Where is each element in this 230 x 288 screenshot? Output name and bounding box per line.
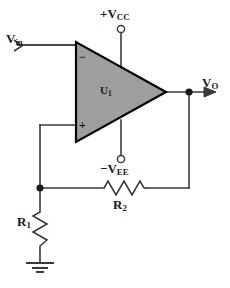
label-r2: R2: [113, 198, 127, 211]
label-r1-symbol: R: [17, 214, 26, 229]
label-vcc-symbol: V: [107, 6, 116, 21]
label-vo-symbol: V: [202, 75, 211, 90]
resistor-r1-zigzag: [33, 212, 47, 250]
label-vin-symbol: V: [6, 31, 15, 46]
label-vo: VO: [202, 76, 218, 89]
noninverting-input-sign: +: [79, 118, 86, 133]
label-vin-subscript: in: [15, 37, 22, 47]
label-vcc-subscript: CC: [117, 12, 130, 22]
label-vee: −VEE: [100, 162, 129, 175]
label-u1-subscript: 1: [108, 89, 112, 98]
label-vee-symbol: V: [107, 161, 116, 176]
schematic-canvas: [0, 0, 230, 288]
feedback-node-dot: [36, 184, 43, 191]
label-vin: Vin: [6, 32, 23, 45]
output-node-dot: [185, 88, 192, 95]
resistor-r2-zigzag: [104, 181, 144, 195]
circuit-diagram: Vin +VCC −VEE VO U1 R2 R1 − +: [0, 0, 230, 288]
vcc-terminal-circle: [117, 25, 124, 32]
label-u1-symbol: U: [100, 84, 108, 96]
label-r2-subscript: 2: [122, 203, 126, 213]
label-r2-symbol: R: [113, 197, 122, 212]
label-u1: U1: [100, 85, 112, 96]
ground-symbol: [26, 263, 54, 272]
label-vee-subscript: EE: [117, 167, 129, 177]
label-vcc: +VCC: [100, 7, 130, 20]
label-r1: R1: [17, 215, 31, 228]
inverting-input-sign: −: [79, 50, 86, 65]
label-r1-subscript: 1: [26, 220, 30, 230]
label-vo-subscript: O: [211, 81, 218, 91]
